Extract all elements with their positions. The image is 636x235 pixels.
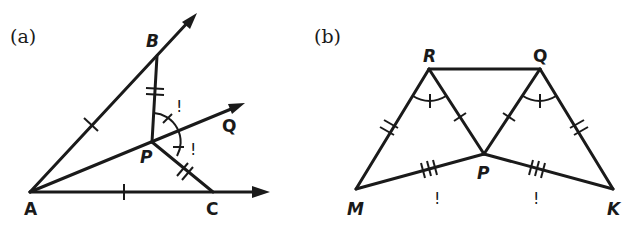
- segment-pc: [152, 142, 213, 192]
- ray-ab: [30, 20, 190, 192]
- label-k: K: [607, 199, 622, 219]
- figure-a-caption: (a): [10, 25, 36, 47]
- label-b: B: [146, 31, 159, 51]
- angle-mark-2: !: [190, 140, 196, 159]
- arrow-c-icon: [252, 186, 270, 198]
- geometry-diagram: (a) ! ! A B C P Q: [0, 0, 636, 235]
- angle-mark-1: !: [176, 97, 182, 116]
- figure-b: (b): [314, 25, 622, 219]
- label-a: A: [24, 199, 38, 219]
- label-q-b: Q: [533, 46, 547, 66]
- segment-rp: [429, 69, 484, 154]
- figure-b-caption: (b): [314, 25, 341, 47]
- label-p: P: [140, 147, 153, 167]
- figure-a: (a) ! ! A B C P Q: [10, 13, 270, 219]
- label-m: M: [347, 199, 364, 219]
- label-p-b: P: [477, 163, 490, 183]
- mark-pk: !: [533, 189, 539, 208]
- ray-aq: [30, 107, 236, 192]
- tick-bp-1: [146, 88, 164, 89]
- mark-mp: !: [434, 189, 440, 208]
- label-q: Q: [222, 116, 236, 136]
- segment-bp: [152, 56, 157, 142]
- tick-bp-2: [146, 94, 164, 95]
- segment-qp: [484, 69, 540, 154]
- label-r: R: [423, 46, 436, 66]
- arrow-q-icon: [228, 103, 245, 114]
- label-c: C: [206, 199, 218, 219]
